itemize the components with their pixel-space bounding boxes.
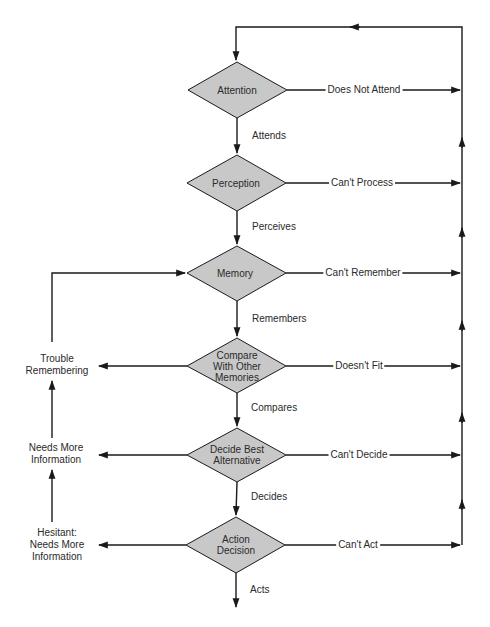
side-label-needs-more-information: Needs More Information (29, 442, 83, 466)
edge-label-attends: Attends (252, 130, 286, 142)
edge-label-cant-decide: Can't Decide (329, 449, 390, 461)
side-label-hesitant: Hesitant: Needs More Information (30, 527, 84, 563)
side-label-trouble-remembering: Trouble Remembering (26, 353, 89, 377)
edge-label-perceives: Perceives (252, 221, 296, 233)
edge-label-decides: Decides (251, 491, 287, 503)
edge-label-acts: Acts (250, 584, 269, 596)
edge-label-cant-process: Can't Process (329, 177, 395, 189)
edge-decides (236, 482, 237, 515)
edge-label-does-not-attend: Does Not Attend (326, 84, 403, 96)
edge-label-compares: Compares (251, 402, 297, 414)
node-label-action: Action Decision (217, 534, 255, 556)
edge-label-cant-act: Can't Act (336, 539, 380, 551)
edge-trouble-to-memory (52, 273, 185, 342)
edge-label-remembers: Remembers (252, 313, 306, 325)
feedback-loop-line (236, 27, 462, 545)
node-label-attention: Attention (217, 85, 256, 96)
node-label-perception: Perception (212, 178, 260, 189)
edge-label-cant-remember: Can't Remember (323, 267, 402, 279)
node-label-decide: Decide Best Alternative (210, 444, 264, 466)
node-label-memory: Memory (217, 268, 253, 279)
node-label-compare: Compare With Other Memories (213, 350, 261, 383)
edge-label-doesnt-fit: Doesn't Fit (333, 360, 384, 372)
